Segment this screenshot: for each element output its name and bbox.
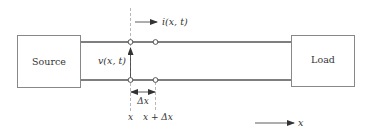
- current-label: i(x, t): [162, 16, 188, 27]
- node-top-x-plus-dx: [153, 40, 158, 45]
- node-top-x: [128, 40, 133, 45]
- load-block: Load: [292, 36, 355, 87]
- node-bottom-x: [128, 78, 133, 83]
- axis-label: x: [298, 117, 304, 128]
- node-bottom-x-plus-dx: [153, 78, 158, 83]
- position-x-plus-dx-label: x + Δx: [143, 112, 173, 122]
- node-circles: [128, 40, 158, 83]
- load-label: Load: [311, 54, 335, 65]
- transmission-line-diagram: Source Load v(x, t) i(x, t) Δx x x + Δx …: [0, 0, 371, 133]
- delta-label: Δx: [136, 96, 149, 106]
- source-block: Source: [18, 36, 81, 88]
- voltage-label: v(x, t): [98, 55, 126, 66]
- source-label: Source: [32, 56, 66, 67]
- position-x-label: x: [128, 112, 133, 122]
